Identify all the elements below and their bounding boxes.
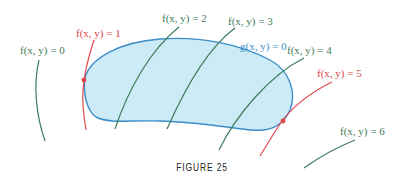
label-f2: f(x, y) = 2 <box>162 13 207 24</box>
constraint-region <box>84 38 292 130</box>
label-f6: f(x, y) = 6 <box>340 126 385 137</box>
label-f4: f(x, y) = 4 <box>287 45 332 56</box>
diagram-canvas <box>0 0 404 179</box>
label-f0: f(x, y) = 0 <box>20 45 65 56</box>
label-f3: f(x, y) = 3 <box>228 16 273 27</box>
label-f1: f(x, y) = 1 <box>76 28 121 39</box>
label-g0: g(x, y) = 0 <box>240 41 287 52</box>
figure-caption: FIGURE 25 <box>30 162 373 173</box>
tangent-point-min <box>82 78 87 83</box>
label-f5: f(x, y) = 5 <box>317 68 362 79</box>
tangent-point-max <box>281 119 286 124</box>
level-curve-0 <box>36 60 45 141</box>
